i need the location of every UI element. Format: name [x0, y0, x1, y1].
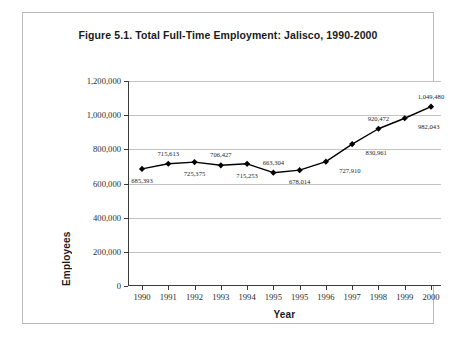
- data-point-label: 1,049,480: [418, 92, 444, 99]
- data-point-marker: [402, 115, 408, 121]
- x-tick-label: 1997: [344, 292, 361, 302]
- data-point-label: 727,910: [339, 166, 360, 173]
- data-point-marker: [428, 104, 434, 110]
- data-point-label: 685,393: [131, 176, 152, 183]
- x-tick-label: 1990: [133, 292, 150, 302]
- chart-title: Figure 5.1. Total Full-Time Employment: …: [23, 29, 433, 41]
- y-tick-label: 600,000: [93, 179, 121, 189]
- x-tick-label: 1992: [186, 292, 203, 302]
- data-point-marker: [165, 161, 171, 167]
- y-tick-label: 400,000: [93, 213, 121, 223]
- x-tick-label: 1998: [370, 292, 387, 302]
- data-point-label: 830,961: [365, 149, 386, 156]
- x-tick-mark: [300, 286, 301, 290]
- x-tick-mark: [195, 286, 196, 290]
- data-point-marker: [270, 170, 276, 176]
- x-tick-mark: [378, 286, 379, 290]
- x-tick-label: 1996: [317, 292, 334, 302]
- y-tick-label: 200,000: [93, 247, 121, 257]
- data-point-label: 663,304: [263, 158, 284, 165]
- data-point-marker: [297, 167, 303, 173]
- x-tick-label: 2000: [422, 292, 439, 302]
- x-tick-label: 1991: [160, 292, 177, 302]
- x-tick-mark: [273, 286, 274, 290]
- x-tick-label: 1995: [265, 292, 282, 302]
- plot-area: 0200,000400,000600,000800,0001,000,0001,…: [128, 81, 441, 286]
- x-tick-mark: [142, 286, 143, 290]
- y-tick-label: 0: [117, 281, 121, 291]
- data-point-marker: [375, 126, 381, 132]
- x-tick-mark: [405, 286, 406, 290]
- y-tick-label: 1,200,000: [87, 76, 121, 86]
- x-tick-mark: [326, 286, 327, 290]
- data-point-label: 706,427: [210, 151, 231, 158]
- data-point-label: 982,043: [418, 123, 439, 130]
- x-axis-title: Year: [128, 309, 441, 320]
- y-axis-title: Employees: [61, 81, 72, 286]
- x-tick-label: 1995: [291, 292, 308, 302]
- data-point-label: 678,014: [289, 178, 310, 185]
- data-point-label: 920,472: [368, 114, 389, 121]
- series-line: [128, 81, 441, 286]
- x-tick-mark: [431, 286, 432, 290]
- figure-frame: Figure 5.1. Total Full-Time Employment: …: [22, 12, 434, 324]
- data-point-label: 715,613: [158, 149, 179, 156]
- x-tick-label: 1994: [238, 292, 255, 302]
- data-point-marker: [244, 161, 250, 167]
- data-point-marker: [218, 162, 224, 168]
- y-tick-label: 1,000,000: [87, 110, 121, 120]
- data-point-label: 715,253: [236, 171, 257, 178]
- data-point-marker: [191, 159, 197, 165]
- y-tick-label: 800,000: [93, 144, 121, 154]
- x-tick-mark: [352, 286, 353, 290]
- y-tick-mark: [124, 286, 128, 287]
- x-tick-label: 1993: [212, 292, 229, 302]
- data-point-label: 725,375: [184, 170, 205, 177]
- data-point-marker: [139, 166, 145, 172]
- x-tick-label: 1999: [396, 292, 413, 302]
- x-tick-mark: [221, 286, 222, 290]
- x-tick-mark: [168, 286, 169, 290]
- x-tick-mark: [247, 286, 248, 290]
